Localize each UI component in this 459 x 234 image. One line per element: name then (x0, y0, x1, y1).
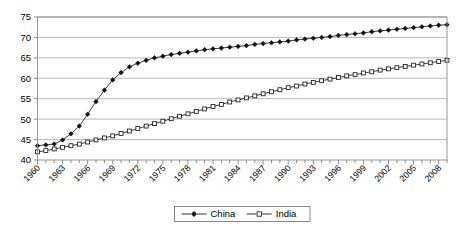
data-point-marker (219, 46, 224, 51)
data-point-marker (261, 92, 265, 96)
data-point-marker (303, 82, 307, 86)
data-point-marker (186, 50, 191, 55)
data-point-marker (436, 23, 441, 28)
data-point-marker (203, 107, 207, 111)
data-point-marker (236, 98, 240, 102)
x-axis-tick-label: 1975 (147, 163, 168, 184)
data-point-marker (194, 109, 198, 113)
data-point-marker (336, 76, 340, 80)
data-point-marker (61, 145, 65, 149)
data-point-marker (194, 49, 199, 54)
line-chart: 4045505560657075 19601963196619691972197… (0, 0, 459, 234)
data-point-marker (286, 86, 290, 90)
data-point-marker (344, 32, 349, 37)
data-point-marker (420, 24, 425, 29)
data-point-marker (353, 73, 357, 77)
x-axis-tick-labels: 1960196319661969197219751978198119841987… (21, 163, 443, 184)
data-point-marker (161, 119, 165, 123)
x-axis-tick-label: 1996 (322, 163, 343, 184)
data-point-marker (52, 142, 57, 147)
x-axis-tick-label: 1972 (122, 163, 143, 184)
y-axis-tick-label: 60 (20, 73, 31, 84)
data-point-marker (345, 74, 349, 78)
plot-area-border (38, 17, 448, 160)
y-axis-tick-labels: 4045505560657075 (20, 11, 31, 165)
data-point-marker (119, 131, 123, 135)
data-point-marker (252, 42, 257, 47)
data-point-marker (412, 63, 416, 67)
data-point-marker (169, 117, 173, 121)
x-axis-tick-label: 1981 (197, 163, 218, 184)
data-point-marker (153, 122, 157, 126)
data-point-marker (77, 142, 81, 146)
y-axis-tick-label: 40 (20, 154, 31, 165)
data-point-marker (135, 61, 140, 66)
data-point-marker (387, 67, 391, 71)
x-axis-tick-label: 2005 (397, 163, 418, 184)
y-axis-tick-label: 55 (20, 93, 31, 104)
legend-label: China (211, 208, 237, 219)
y-axis-tick-label: 70 (20, 32, 31, 43)
data-series (35, 22, 449, 153)
data-point-marker (328, 77, 332, 81)
data-point-marker (403, 26, 408, 31)
data-point-marker (428, 61, 432, 65)
data-point-marker (202, 47, 207, 52)
data-point-marker (286, 39, 291, 44)
data-point-marker (278, 40, 283, 45)
data-point-marker (244, 96, 248, 100)
data-point-marker (136, 127, 140, 131)
x-axis-tick-label: 1987 (247, 163, 268, 184)
data-point-marker (386, 28, 391, 33)
data-point-marker (437, 60, 441, 64)
data-point-marker (411, 25, 416, 30)
data-point-marker (111, 134, 115, 138)
series-line-india (38, 60, 448, 152)
data-point-marker (361, 31, 366, 36)
data-point-marker (395, 66, 399, 70)
data-point-marker (177, 51, 182, 56)
y-axis-tick-label: 50 (20, 114, 31, 125)
x-axis-tick-label: 1978 (172, 163, 193, 184)
data-point-marker (86, 140, 90, 144)
data-point-marker (270, 90, 274, 94)
x-axis-tick-label: 1966 (72, 163, 93, 184)
x-axis-tick-label: 2002 (372, 163, 393, 184)
data-point-marker (127, 129, 131, 133)
data-point-marker (253, 94, 257, 98)
data-point-marker (378, 29, 383, 34)
series-line-china (38, 25, 448, 146)
data-point-marker (44, 143, 49, 148)
data-point-marker (186, 112, 190, 116)
x-axis-tick-label: 1960 (21, 163, 42, 184)
data-point-marker (311, 36, 316, 41)
x-axis-tick-label: 1969 (97, 163, 118, 184)
data-point-marker (44, 149, 48, 153)
data-point-marker (336, 33, 341, 38)
data-point-marker (219, 102, 223, 106)
x-axis-tick-label: 1990 (272, 163, 293, 184)
data-point-marker (403, 64, 407, 68)
data-point-marker (269, 40, 274, 45)
legend-label: India (276, 208, 297, 219)
data-point-marker (320, 79, 324, 83)
x-axis-tick-label: 1984 (222, 163, 243, 184)
data-point-marker (353, 31, 358, 36)
x-axis-tick-label: 2008 (423, 163, 444, 184)
data-point-marker (94, 138, 98, 142)
y-axis-tick-label: 75 (20, 11, 31, 22)
series-china (35, 22, 449, 148)
y-axis-tick-label: 65 (20, 52, 31, 63)
data-point-marker (294, 38, 299, 43)
data-point-marker (257, 212, 261, 216)
data-point-marker (319, 35, 324, 40)
chart-container: 4045505560657075 19601963196619691972197… (0, 0, 459, 234)
data-point-marker (311, 80, 315, 84)
data-point-marker (169, 52, 174, 57)
data-point-marker (211, 47, 216, 52)
data-point-marker (236, 44, 241, 49)
data-point-marker (261, 41, 266, 46)
data-point-marker (144, 124, 148, 128)
x-axis-tick-label: 1963 (46, 163, 67, 184)
data-point-marker (428, 24, 433, 29)
